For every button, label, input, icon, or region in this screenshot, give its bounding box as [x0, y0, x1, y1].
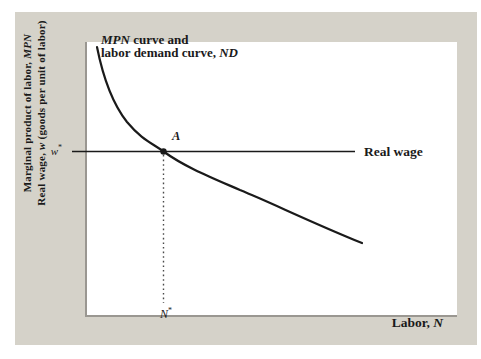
- curve-label: MPN curve and labor demand curve, ND: [101, 34, 238, 60]
- real-wage-label: Real wage: [364, 144, 423, 160]
- y-axis-label-line2: Real wage, w (goods per unit of labor): [34, 20, 48, 205]
- plot-area: [85, 42, 457, 317]
- w-star-label: w*: [38, 145, 62, 157]
- figure-canvas: Marginal product of labor, MPN Real wage…: [0, 0, 481, 359]
- y-axis-label-line1: Marginal product of labor, MPN: [20, 20, 34, 205]
- curve-label-line2: labor demand curve, ND: [101, 47, 238, 60]
- y-axis-label: Marginal product of labor, MPN Real wage…: [20, 20, 48, 205]
- point-a-label: A: [172, 129, 180, 144]
- x-axis-label: Labor, N: [333, 315, 443, 331]
- n-star-label: N*: [149, 307, 183, 322]
- figure-panel: [15, 12, 477, 345]
